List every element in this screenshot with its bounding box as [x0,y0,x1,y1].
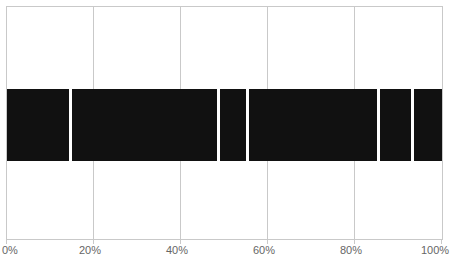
axis-tick-marks [6,239,443,245]
plot-area [6,6,443,240]
x-tick-label-80: 80% [340,244,362,257]
stacked-bar [7,89,442,161]
x-tick-label-40: 40% [166,244,188,257]
bar-segment-6[interactable] [414,89,442,161]
bar-segment-2[interactable] [72,89,218,161]
bar-segment-1[interactable] [7,89,69,161]
chart-container: 0% 20% 40% 60% 80% 100% [0,0,459,267]
bar-segment-3[interactable] [220,89,245,161]
x-tick-label-100: 100% [421,244,449,257]
x-tick-label-60: 60% [253,244,275,257]
bar-segment-4[interactable] [249,89,378,161]
bar-segment-5[interactable] [380,89,411,161]
x-tick-label-20: 20% [79,244,101,257]
x-tick-label-0: 0% [2,244,18,257]
